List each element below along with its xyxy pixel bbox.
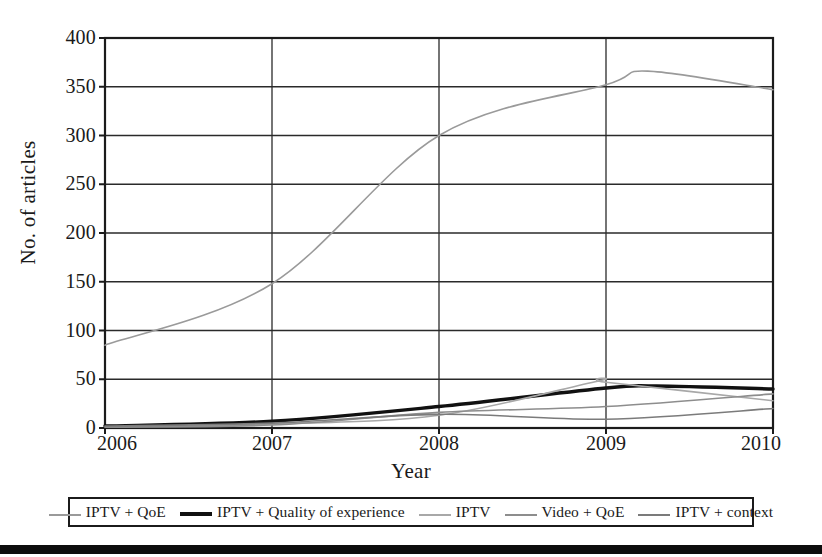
legend-swatch-line-icon [180, 503, 212, 521]
legend-item-label: Video + QoE [542, 504, 625, 520]
x-tick-label: 2008 [394, 432, 484, 454]
legend-item[interactable]: IPTV + QoE [42, 503, 173, 521]
legend-item[interactable]: IPTV [412, 503, 498, 521]
chart-legend: IPTV + QoEIPTV + Quality of experienceIP… [68, 497, 754, 527]
chart-figure: 050100150200250300350400 200620072008200… [0, 0, 822, 557]
plot-area: 050100150200250300350400 200620072008200… [0, 0, 822, 500]
y-tick-label-text: 350 [38, 76, 96, 96]
x-tick-label: 2006 [97, 432, 187, 454]
chart-canvas [0, 0, 822, 500]
legend-swatch-line-icon [505, 503, 537, 521]
axis-ticks [99, 38, 773, 434]
x-axis-title: Year [0, 459, 822, 484]
x-tick-label: 2009 [561, 432, 651, 454]
legend-item-label: IPTV + QoE [86, 504, 166, 520]
x-tick-label: 2007 [227, 432, 317, 454]
legend-item-label: IPTV + context [675, 504, 773, 520]
legend-swatch-line-icon [419, 503, 451, 521]
y-tick-label-text: 250 [38, 173, 96, 193]
legend-item[interactable]: Video + QoE [498, 503, 632, 521]
y-tick-label-text: 150 [38, 271, 96, 291]
y-tick-label-text: 400 [38, 27, 96, 47]
y-tick-label-text: 0 [38, 417, 96, 437]
legend-item-label: IPTV [456, 504, 491, 520]
y-tick-label-text: 100 [38, 320, 96, 340]
legend-item[interactable]: IPTV + Quality of experience [173, 503, 412, 521]
y-tick-label-text: 300 [38, 125, 96, 145]
legend-item-label: IPTV + Quality of experience [217, 504, 405, 520]
footer-bar [0, 545, 822, 554]
legend-swatch-line-icon [638, 503, 670, 521]
y-tick-label-text: 200 [38, 222, 96, 242]
legend-swatch-line-icon [49, 503, 81, 521]
y-tick-label-text: 50 [38, 368, 96, 388]
y-axis-title: No. of articles [16, 113, 41, 293]
x-tick-label: 2010 [691, 432, 781, 454]
legend-item[interactable]: IPTV + context [631, 503, 780, 521]
gridlines [105, 38, 773, 428]
